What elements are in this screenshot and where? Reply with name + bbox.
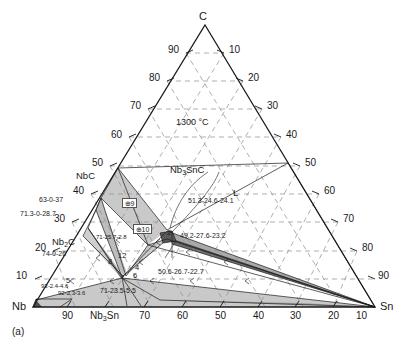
- tick-right-90: 90: [378, 271, 389, 281]
- corner-label-nb: Nb: [12, 301, 26, 312]
- tick-left-60: 60: [111, 130, 122, 140]
- phase-label-nbc: NbC: [76, 171, 95, 181]
- composition-71p3-0-28p7: 71.3-0-28.7: [20, 210, 56, 217]
- tie-line-number-12: 12: [118, 252, 126, 260]
- phase-label-nb2c: Nb2C: [52, 237, 75, 248]
- tick-left-50: 50: [92, 158, 103, 168]
- tick-left-40: 40: [73, 186, 84, 196]
- composition-63-0-37: 63-0-37: [39, 196, 63, 203]
- tick-right-40: 40: [286, 130, 297, 140]
- tick-right-80: 80: [362, 243, 373, 253]
- corner-label-c: C: [199, 11, 207, 22]
- tick-right-30: 30: [267, 101, 278, 111]
- composition-93-2p4-4p6: 93-2.4-4.6: [41, 283, 68, 289]
- tick-bottom-70: 70: [139, 311, 150, 321]
- tick-bottom-40: 40: [253, 311, 264, 321]
- isotherm-label: 1300 °C: [176, 118, 209, 127]
- tick-left-70: 70: [130, 101, 141, 111]
- tick-bottom-90: 90: [62, 311, 73, 321]
- corner-label-sn: Sn: [380, 301, 393, 312]
- composition-49p2-27p6-23p2: 49.2-27.6-23.2: [180, 232, 226, 239]
- tick-bottom-20: 20: [328, 311, 339, 321]
- tie-line-number-8: 8: [108, 258, 112, 266]
- composition-92-2p3-3p6: 92-2.3-3.6: [58, 290, 85, 296]
- figure-caption: (a): [12, 327, 24, 337]
- tick-bottom-10: 10: [356, 311, 367, 321]
- tie-line-number-6: 6: [133, 272, 137, 280]
- tie-line-number-5: 5: [66, 277, 70, 285]
- region-liquid-bottom: [36, 278, 375, 307]
- tick-left-80: 80: [149, 73, 160, 83]
- tie-line-number-2: 2: [167, 229, 171, 237]
- point-marker-10: ⊕10: [133, 224, 152, 234]
- composition-74-0-26: 74-0-26: [42, 250, 66, 257]
- composition-50p6-26p7-22p7: 50.6-26.7-22.7: [158, 268, 204, 275]
- tick-left-90: 90: [168, 45, 179, 55]
- tick-right-50: 50: [305, 158, 316, 168]
- tick-right-60: 60: [324, 186, 335, 196]
- tick-bottom-nb3sn: Nb3Sn: [90, 311, 119, 322]
- tick-right-20: 20: [248, 73, 259, 83]
- phase-label-nb3snc: Nb3SnC: [170, 165, 204, 176]
- tick-bottom-30: 30: [290, 311, 301, 321]
- tick-bottom-60: 60: [177, 311, 188, 321]
- tick-right-70: 70: [343, 214, 354, 224]
- composition-51p3-24p6-24p1: 51.3-24.6-24.1: [188, 197, 234, 204]
- ternary-phase-diagram-figure: C Nb Sn 90 80 70 60 50 40 30 20 10 10 20…: [0, 0, 398, 353]
- diagram-canvas: [0, 0, 398, 353]
- point-marker-9: ⊕9: [122, 198, 137, 208]
- tick-right-10: 10: [229, 45, 240, 55]
- tick-left-10: 10: [16, 271, 27, 281]
- tick-bottom-50: 50: [215, 311, 226, 321]
- composition-71-23p5-5p5: 71-23.5-5.5: [100, 287, 136, 294]
- composition-71-25p7-2p8: 71-25.7-2.8: [96, 234, 127, 240]
